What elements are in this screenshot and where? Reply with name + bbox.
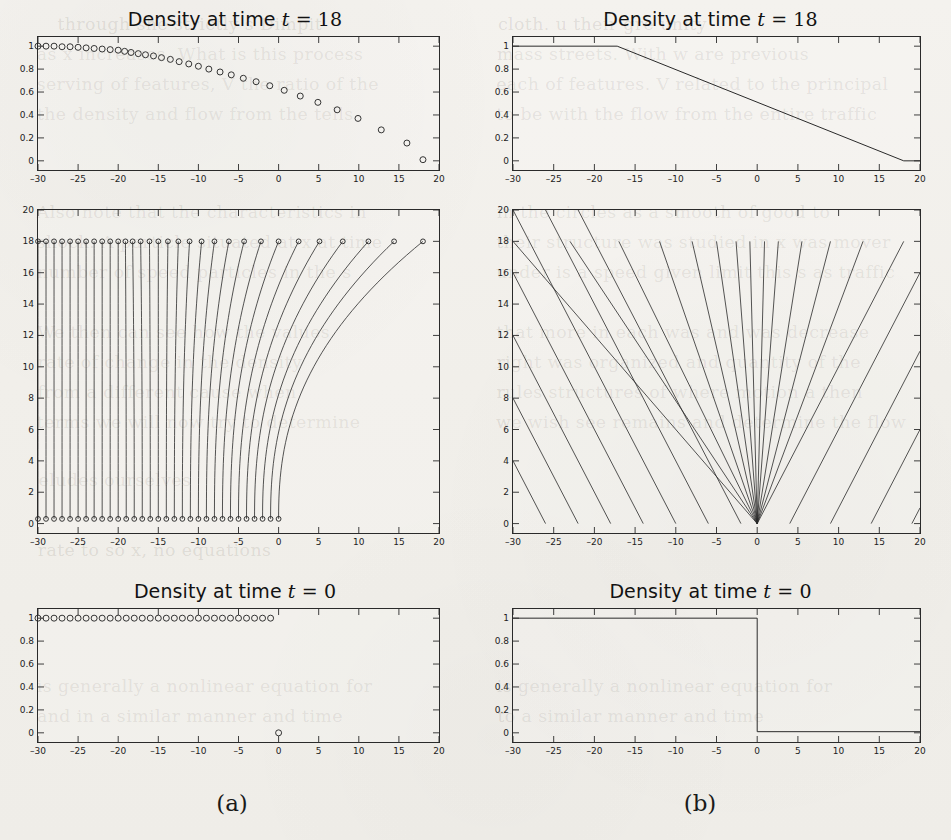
xtick-label: –25 [70, 746, 86, 756]
ytick-label: 0.8 [8, 636, 34, 646]
ytick-label: 12 [8, 330, 34, 340]
xtick-label: –5 [233, 174, 243, 184]
xtick-label: 5 [795, 174, 801, 184]
data-marker [297, 93, 303, 99]
data-marker [128, 49, 134, 55]
data-marker [211, 615, 217, 621]
xtick-label: 15 [393, 174, 404, 184]
data-marker [236, 615, 242, 621]
data-marker [217, 69, 223, 75]
axes-mid-left[interactable]: –30–25–20–15–10–505101520024681012141618… [37, 209, 440, 534]
data-marker [91, 45, 97, 51]
data-line [546, 210, 709, 524]
ytick-label: 10 [483, 362, 509, 372]
ytick-label: 10 [8, 362, 34, 372]
subfigure-caption-a: (a) [216, 790, 248, 816]
xtick-label: 10 [353, 537, 364, 547]
ytick-label: 8 [483, 393, 509, 403]
axes-bot-left[interactable]: –30–25–20–15–10–50510152010.80.60.40.20 [37, 608, 440, 743]
xtick-label: –30 [505, 537, 521, 547]
xtick-label: –25 [546, 746, 562, 756]
data-line [513, 210, 676, 524]
data-marker [171, 615, 177, 621]
xtick-label: –30 [505, 746, 521, 756]
ytick-label: 0.2 [483, 705, 509, 715]
data-marker [240, 75, 246, 81]
data-marker [147, 615, 153, 621]
xtick-label: 5 [316, 746, 322, 756]
panel-bot-left-title: Density at time t = 0 [0, 580, 470, 602]
data-marker [176, 59, 182, 65]
axes-top-left[interactable]: –30–25–20–15–10–50510152010.80.60.40.20 [37, 36, 440, 171]
plot-canvas-mid_right [513, 210, 920, 533]
xtick-label: –10 [668, 746, 684, 756]
data-marker [83, 615, 89, 621]
ytick-label: 16 [483, 268, 509, 278]
data-marker [268, 615, 274, 621]
data-marker [404, 140, 410, 146]
ytick-label: 0 [483, 156, 509, 166]
ytick-label: 0.6 [483, 87, 509, 97]
data-marker [135, 51, 141, 57]
data-marker [187, 615, 193, 621]
axes-top-right[interactable]: –30–25–20–15–10–50510152010.80.60.40.20 [512, 36, 921, 171]
xtick-label: 20 [433, 174, 444, 184]
xtick-label: 10 [833, 746, 844, 756]
axes-mid-right[interactable]: –30–25–20–15–10–505101520024681012141618… [512, 209, 921, 534]
data-line [133, 241, 135, 519]
data-marker [115, 615, 121, 621]
data-marker [123, 615, 129, 621]
xtick-label: 10 [353, 174, 364, 184]
xtick-label: 20 [433, 537, 444, 547]
axes-bot-right[interactable]: –30–25–20–15–10–50510152010.80.60.40.20 [512, 608, 921, 743]
plot-canvas-top_left [38, 37, 439, 170]
data-line [190, 241, 201, 519]
data-marker [83, 45, 89, 51]
plot-canvas-bot_right [513, 609, 920, 742]
ytick-label: 18 [8, 236, 34, 246]
data-line [513, 273, 643, 524]
xtick-label: –25 [70, 537, 86, 547]
data-marker [115, 47, 121, 53]
ytick-label: 1 [8, 41, 34, 51]
ytick-label: 6 [8, 425, 34, 435]
data-line [271, 241, 395, 519]
data-line [149, 241, 150, 519]
xtick-label: –15 [150, 537, 166, 547]
data-marker [334, 107, 340, 113]
data-line [619, 241, 757, 523]
data-line [263, 241, 369, 519]
data-marker [244, 615, 250, 621]
data-line [279, 241, 423, 519]
ytick-label: 0.6 [483, 659, 509, 669]
xtick-label: 0 [276, 537, 282, 547]
xtick-label: 20 [914, 537, 925, 547]
data-line [166, 241, 168, 519]
data-marker [252, 615, 258, 621]
xtick-label: –20 [586, 746, 602, 756]
ytick-label: 0.4 [483, 110, 509, 120]
data-marker [67, 44, 73, 50]
data-line [206, 241, 228, 519]
data-marker [107, 47, 113, 53]
data-line [757, 241, 904, 523]
ytick-label: 0.8 [483, 64, 509, 74]
ytick-label: 4 [483, 456, 509, 466]
xtick-label: –15 [627, 537, 643, 547]
xtick-label: 0 [754, 746, 760, 756]
ytick-label: 0.4 [483, 682, 509, 692]
data-marker [59, 615, 65, 621]
xtick-label: –5 [711, 537, 721, 547]
xtick-label: 10 [833, 537, 844, 547]
xtick-label: –30 [30, 537, 46, 547]
data-line [757, 241, 863, 523]
data-line [182, 241, 189, 519]
data-line [830, 351, 920, 523]
ytick-label: 4 [8, 456, 34, 466]
data-marker [122, 48, 128, 54]
data-line [513, 46, 920, 161]
ytick-label: 14 [8, 299, 34, 309]
data-marker [206, 66, 212, 72]
xtick-label: –20 [110, 537, 126, 547]
xtick-label: –10 [190, 537, 206, 547]
